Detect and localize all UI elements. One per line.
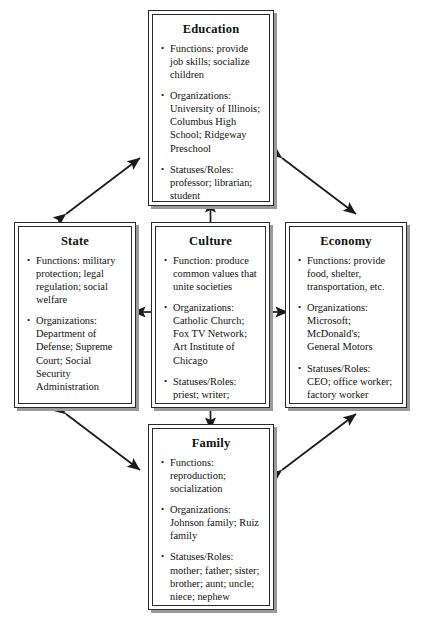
connector-family-to-economy xyxy=(282,414,356,470)
node-economy: Economy Functions: provide food, shelter… xyxy=(285,222,407,408)
list-item: Organizations: Microsoft; McDonald's; Ge… xyxy=(298,301,394,353)
node-education-title: Education xyxy=(161,23,261,37)
list-item: Functions: provide job skills; socialize… xyxy=(161,42,261,81)
node-economy-title: Economy xyxy=(298,235,394,249)
node-culture-bullets: Function: produce common values that uni… xyxy=(164,254,257,404)
list-item: Statuses/Roles: CEO; office worker; fact… xyxy=(298,362,394,401)
node-education-bullets: Functions: provide job skills; socialize… xyxy=(161,42,261,202)
connector-state-to-education xyxy=(66,158,140,214)
node-family-bullets: Functions: reproduction; socialization O… xyxy=(161,456,261,603)
list-item: Statuses/Roles: professor; librarian; st… xyxy=(161,163,261,202)
list-item: Organizations: Department of Defense; Su… xyxy=(27,314,123,393)
list-item: Statuses/Roles: mother; father; sister; … xyxy=(161,550,261,602)
list-item: Organizations: Johnson family; Ruiz fami… xyxy=(161,503,261,542)
list-item: Statuses/Roles: sergeant; justice; case … xyxy=(27,401,123,404)
list-item: Functions: military protection; legal re… xyxy=(27,254,123,306)
node-state: State Functions: military protection; le… xyxy=(14,222,136,408)
list-item: Function: produce common values that uni… xyxy=(164,254,257,293)
node-culture: Culture Function: produce common values … xyxy=(151,222,270,408)
list-item: Statuses/Roles: priest; writer; curator;… xyxy=(164,375,257,404)
node-economy-bullets: Functions: provide food, shelter, transp… xyxy=(298,254,394,401)
node-culture-title: Culture xyxy=(164,235,257,249)
node-family: Family Functions: reproduction; socializ… xyxy=(148,424,274,610)
connector-education-to-economy xyxy=(282,158,356,214)
node-state-bullets: Functions: military protection; legal re… xyxy=(27,254,123,404)
node-family-title: Family xyxy=(161,437,261,451)
list-item: Functions: reproduction; socialization xyxy=(161,456,261,495)
list-item: Organizations: Catholic Church; Fox TV N… xyxy=(164,301,257,367)
node-education: Education Functions: provide job skills;… xyxy=(148,10,274,206)
list-item: Functions: provide food, shelter, transp… xyxy=(298,254,394,293)
connector-state-to-family xyxy=(66,414,140,470)
list-item: Organizations: University of Illinois; C… xyxy=(161,89,261,155)
institutions-diagram: Education Functions: provide job skills;… xyxy=(0,0,421,619)
node-state-title: State xyxy=(27,235,123,249)
